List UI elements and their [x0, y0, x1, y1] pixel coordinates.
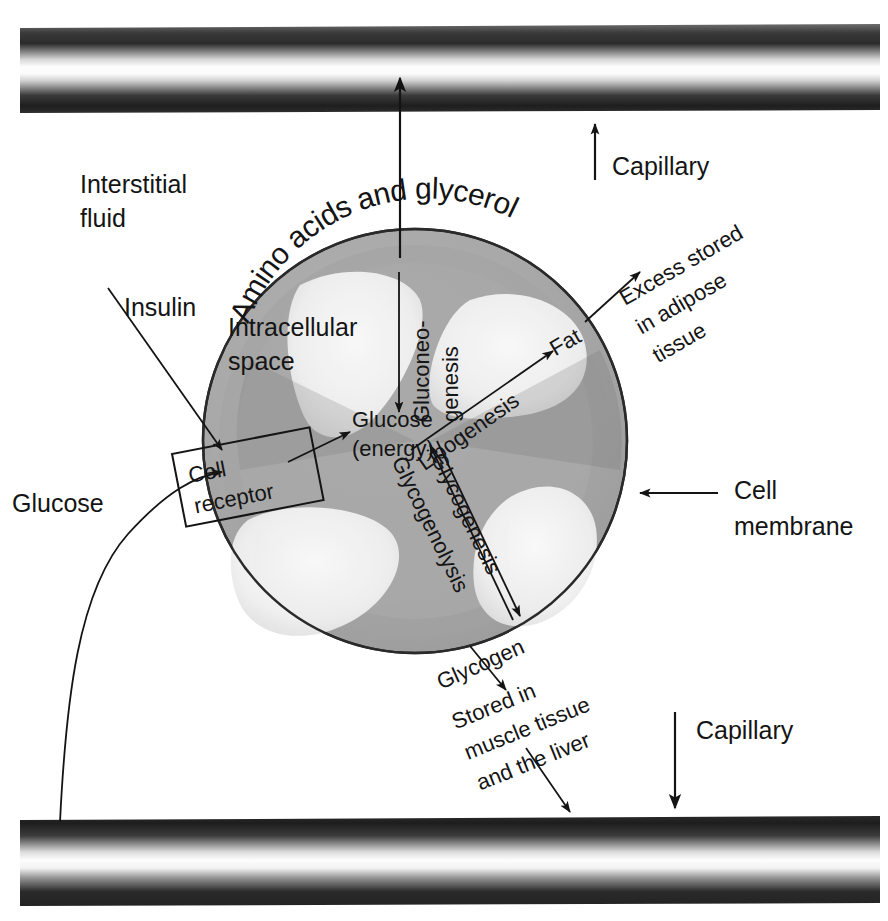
adipose-storage-label: Excess stored in adipose tissue	[615, 220, 780, 368]
gluconeogenesis-label-line2: genesis	[438, 346, 463, 422]
intracellular-space-label-line2: space	[228, 347, 295, 375]
capillary-top	[20, 24, 880, 113]
capillary-bottom-label: Capillary	[696, 716, 794, 744]
intracellular-space-label-line1: Intracellular	[228, 313, 357, 341]
cell-membrane-label-line2: membrane	[734, 512, 854, 540]
interstitial-fluid-label-line2: fluid	[80, 204, 126, 232]
glucose-input-label: Glucose	[12, 489, 104, 517]
diagram-canvas: Interstitial fluid Capillary Capillary I…	[0, 0, 888, 921]
capillary-bottom	[20, 816, 880, 906]
metabolism-diagram: Interstitial fluid Capillary Capillary I…	[0, 0, 888, 921]
interstitial-fluid-label-line1: Interstitial	[80, 170, 187, 198]
insulin-label: Insulin	[124, 293, 196, 321]
capillary-top-label: Capillary	[612, 152, 710, 180]
gluconeogenesis-label-line1: Gluconeo-	[409, 320, 434, 422]
cell-membrane-label-line1: Cell	[734, 476, 777, 504]
